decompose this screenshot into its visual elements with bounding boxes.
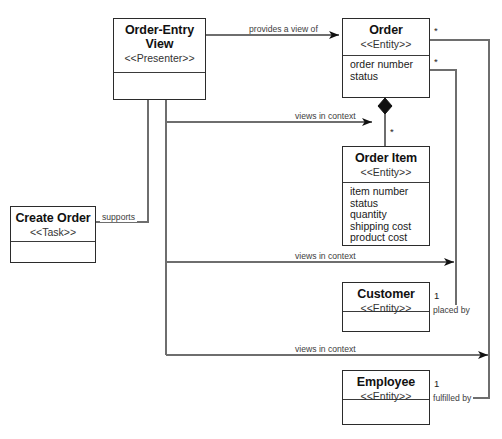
class-attributes (11, 242, 95, 262)
class-box-customer[interactable]: Customer <<Entity>> (342, 282, 430, 332)
edge-label-fulfilled-by: fulfilled by (431, 393, 473, 403)
class-box-order-entry-view[interactable]: Order-Entry View <<Presenter>> (113, 18, 206, 100)
multiplicity-employee-end: 1 (433, 379, 440, 389)
class-attributes (343, 400, 429, 424)
class-header: Order-Entry View <<Presenter>> (114, 19, 205, 73)
edge-order-to-employee (430, 40, 489, 398)
attribute-row: status (350, 71, 423, 83)
edge-order-to-customer (430, 70, 456, 310)
class-stereotype: <<Entity>> (345, 166, 427, 179)
class-stereotype: <<Presenter>> (116, 52, 203, 65)
multiplicity-customer-end: 1 (433, 291, 440, 301)
class-box-order[interactable]: Order <<Entity>> order number status (342, 18, 430, 98)
class-name: Employee (345, 375, 427, 389)
class-name: Order-Entry (116, 23, 203, 37)
composition-diamond-icon (378, 98, 392, 114)
edge-label-views-in-context-2: views in context (293, 251, 358, 261)
uml-robustness-diagram: Order-Entry View <<Presenter>> Create Or… (0, 0, 502, 439)
multiplicity-order-order-item: * (389, 127, 395, 137)
class-name-line2: View (116, 37, 203, 51)
class-name: Order (345, 23, 427, 37)
edge-label-supports: supports (100, 212, 137, 222)
class-header: Order Item <<Entity>> (343, 147, 429, 183)
class-name: Customer (345, 287, 427, 301)
multiplicity-order-customer: * (433, 57, 439, 67)
class-attributes (343, 312, 429, 331)
edge-label-placed-by: placed by (431, 305, 472, 315)
class-header: Customer <<Entity>> (343, 283, 429, 312)
edge-create-order-supports (96, 100, 148, 222)
edge-label-views-in-context-1: views in context (293, 111, 358, 121)
class-box-order-item[interactable]: Order Item <<Entity>> item number status… (342, 146, 430, 246)
class-attributes: item number status quantity shipping cos… (343, 183, 429, 247)
attribute-row: item number (350, 186, 423, 198)
class-name: Create Order (13, 211, 93, 225)
attribute-row: order number (350, 59, 423, 71)
class-box-employee[interactable]: Employee <<Entity>> (342, 370, 430, 425)
class-stereotype: <<Task>> (13, 226, 93, 239)
class-attributes (114, 73, 205, 99)
attribute-row: product cost (350, 232, 423, 244)
edge-label-provides-a-view-of: provides a view of (247, 24, 320, 34)
class-header: Order <<Entity>> (343, 19, 429, 56)
class-name: Order Item (345, 151, 427, 165)
class-stereotype: <<Entity>> (345, 38, 427, 51)
edge-label-views-in-context-3: views in context (293, 344, 358, 354)
class-header: Employee <<Entity>> (343, 371, 429, 400)
class-attributes: order number status (343, 56, 429, 97)
class-header: Create Order <<Task>> (11, 207, 95, 242)
multiplicity-order-employee: * (433, 26, 439, 36)
class-box-create-order[interactable]: Create Order <<Task>> (10, 206, 96, 263)
